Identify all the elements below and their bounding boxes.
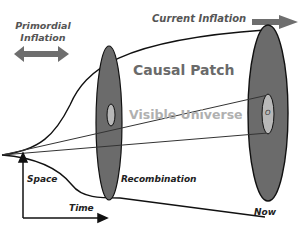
primordial-label-line1: Primordial: [10, 20, 76, 32]
current-inflation-label: Current Inflation: [152, 13, 246, 24]
primordial-inflation-label: Primordial Inflation: [10, 20, 76, 44]
time-axis-label: Time: [69, 203, 94, 213]
observer-label: O: [265, 109, 271, 117]
visible-at-recombination: [107, 104, 115, 126]
visible-universe-label: Visible Universe: [129, 107, 243, 122]
now-label: Now: [254, 207, 276, 217]
space-axis-label: Space: [27, 174, 57, 184]
recombination-label: Recombination: [121, 174, 196, 184]
right-arrow-icon: [252, 15, 298, 29]
axes: [19, 153, 107, 222]
double-arrow-icon: [14, 46, 69, 62]
causal-patch-label: Causal Patch: [133, 62, 234, 78]
primordial-label-line2: Inflation: [10, 32, 76, 44]
